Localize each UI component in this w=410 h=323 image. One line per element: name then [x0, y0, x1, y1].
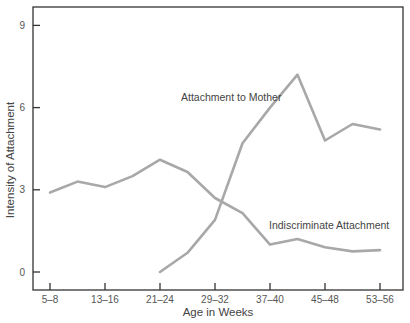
y-tick-label: 3 [19, 184, 25, 195]
plot-frame [33, 7, 403, 290]
x-tick-label: 53–56 [366, 294, 394, 305]
x-axis-title: Age in Weeks [183, 306, 254, 318]
series-lines [50, 75, 380, 272]
x-tick-label: 37–40 [256, 294, 284, 305]
x-tick-label: 5–8 [42, 294, 59, 305]
series-annotations: Attachment to MotherIndiscriminate Attac… [181, 91, 389, 231]
plot-border [33, 7, 403, 290]
attachment-to-mother-line [160, 75, 380, 272]
x-tick-label: 29–32 [201, 294, 229, 305]
y-tick-label: 0 [19, 267, 25, 278]
x-axis-ticks: 5–813–1621–2429–3237–4045–4853–56 [42, 283, 395, 305]
indiscriminate-attachment-label: Indiscriminate Attachment [269, 219, 389, 231]
attachment-to-mother-label: Attachment to Mother [181, 91, 282, 103]
y-axis-ticks: 0369 [19, 20, 40, 278]
x-tick-label: 13–16 [91, 294, 119, 305]
y-tick-label: 6 [19, 102, 25, 113]
line-chart: 0369 5–813–1621–2429–3237–4045–4853–56 A… [0, 0, 410, 323]
indiscriminate-attachment-line [50, 160, 380, 252]
x-tick-label: 21–24 [146, 294, 174, 305]
x-tick-label: 45–48 [311, 294, 339, 305]
y-tick-label: 9 [19, 20, 25, 31]
y-axis-title: Intensity of Attachment [4, 101, 16, 218]
